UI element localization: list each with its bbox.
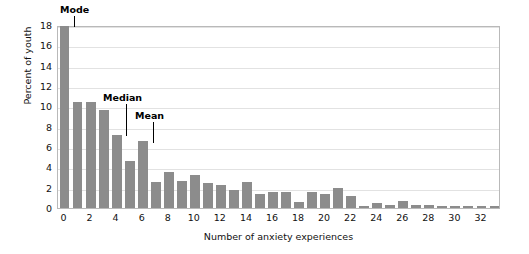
x-axis-title: Number of anxiety experiences xyxy=(57,231,500,242)
x-tick-label: 16 xyxy=(261,212,283,223)
annotation-leader-median xyxy=(126,104,127,136)
y-tick-label: 18 xyxy=(26,20,52,31)
bar xyxy=(203,183,213,208)
bar xyxy=(477,206,487,208)
x-tick-label: 28 xyxy=(417,212,439,223)
bar xyxy=(125,161,135,208)
bar xyxy=(372,203,382,208)
bar xyxy=(112,135,122,208)
y-tick-label: 16 xyxy=(26,40,52,51)
y-tick-label: 12 xyxy=(26,81,52,92)
annotation-leader-mean xyxy=(153,122,154,143)
bar xyxy=(411,205,421,208)
annotation-label-mean: Mean xyxy=(135,110,164,121)
bar xyxy=(229,190,239,208)
x-tick-label: 26 xyxy=(391,212,413,223)
y-tick-label: 0 xyxy=(26,203,52,214)
bar xyxy=(151,182,161,208)
bar xyxy=(307,192,317,208)
bar xyxy=(60,26,70,208)
bar xyxy=(242,182,252,208)
bar xyxy=(177,181,187,208)
bar xyxy=(490,206,500,208)
plot-area xyxy=(57,26,500,209)
x-tick-label: 20 xyxy=(313,212,335,223)
bar xyxy=(86,102,96,208)
bar xyxy=(255,194,265,208)
bar xyxy=(281,192,291,208)
x-tick-label: 14 xyxy=(235,212,257,223)
bar xyxy=(437,206,447,208)
x-tick-label: 8 xyxy=(157,212,179,223)
bar xyxy=(216,185,226,208)
x-tick-label: 6 xyxy=(131,212,153,223)
bar xyxy=(294,202,304,208)
bar xyxy=(320,194,330,208)
x-tick-label: 12 xyxy=(209,212,231,223)
anxiety-experiences-histogram: Percent of youth 024681012141618 0246810… xyxy=(0,0,529,254)
x-tick-label: 0 xyxy=(53,212,75,223)
x-tick-label: 10 xyxy=(183,212,205,223)
bar xyxy=(450,206,460,208)
x-tick-label: 24 xyxy=(365,212,387,223)
y-tick-label: 10 xyxy=(26,101,52,112)
y-tick-label: 6 xyxy=(26,142,52,153)
y-tick-label: 14 xyxy=(26,61,52,72)
bar xyxy=(359,206,369,208)
y-tick-label: 4 xyxy=(26,162,52,173)
y-tick-label: 2 xyxy=(26,183,52,194)
x-tick-label: 32 xyxy=(469,212,491,223)
bar xyxy=(333,188,343,208)
bar xyxy=(73,102,83,208)
bar xyxy=(99,110,109,208)
x-tick-label: 4 xyxy=(105,212,127,223)
x-tick-label: 2 xyxy=(79,212,101,223)
bar xyxy=(164,172,174,208)
bar xyxy=(385,205,395,208)
bar xyxy=(424,205,434,208)
bar-series xyxy=(58,27,499,208)
bar xyxy=(463,206,473,208)
bar xyxy=(268,192,278,208)
x-tick-label: 18 xyxy=(287,212,309,223)
y-tick-label: 8 xyxy=(26,122,52,133)
annotation-label-median: Median xyxy=(103,92,142,103)
x-tick-label: 22 xyxy=(339,212,361,223)
x-tick-label: 30 xyxy=(443,212,465,223)
annotation-label-mode: Mode xyxy=(60,4,89,15)
bar xyxy=(346,196,356,208)
bar xyxy=(138,141,148,208)
annotation-leader-mode xyxy=(74,16,75,27)
bar xyxy=(398,201,408,208)
bar xyxy=(190,175,200,208)
